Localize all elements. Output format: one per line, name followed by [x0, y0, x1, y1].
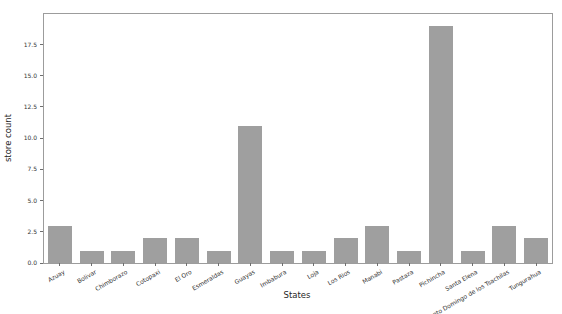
bar	[111, 251, 135, 263]
x-tick-mark	[313, 263, 314, 266]
y-tick-mark	[40, 44, 43, 45]
x-axis-label: States	[43, 290, 551, 300]
plot-area: 0.02.55.07.510.012.515.017.5AzuayBolivar…	[43, 13, 553, 264]
bar	[143, 238, 167, 263]
x-tick-mark	[123, 263, 124, 266]
y-tick-mark	[40, 75, 43, 76]
bar	[334, 238, 358, 263]
bar	[270, 251, 294, 263]
y-tick-label: 5.0	[4, 197, 37, 205]
bar	[175, 238, 199, 263]
x-tick-mark	[91, 263, 92, 266]
bar	[492, 226, 516, 263]
bars-layer	[44, 14, 552, 263]
y-tick-mark	[40, 200, 43, 201]
bar	[207, 251, 231, 263]
y-tick-label: 15.0	[4, 72, 37, 80]
y-tick-label: 2.5	[4, 228, 37, 236]
y-tick-mark	[40, 231, 43, 232]
y-tick-label: 0.0	[4, 259, 37, 267]
bar	[302, 251, 326, 263]
x-tick-mark	[218, 263, 219, 266]
y-tick-label: 17.5	[4, 41, 37, 49]
x-tick-mark	[472, 263, 473, 266]
y-tick-mark	[40, 106, 43, 107]
y-tick-label: 10.0	[4, 134, 37, 142]
x-tick-mark	[377, 263, 378, 266]
x-tick-mark	[250, 263, 251, 266]
y-tick-mark	[40, 138, 43, 139]
x-tick-mark	[440, 263, 441, 266]
x-tick-mark	[282, 263, 283, 266]
bar	[524, 238, 548, 263]
bar	[429, 26, 453, 263]
bar	[238, 126, 262, 263]
bar	[397, 251, 421, 263]
x-tick-mark	[504, 263, 505, 266]
x-tick-mark	[186, 263, 187, 266]
bar	[48, 226, 72, 263]
bar	[365, 226, 389, 263]
x-tick-mark	[345, 263, 346, 266]
y-tick-label: 7.5	[4, 165, 37, 173]
x-tick-mark	[536, 263, 537, 266]
bar	[80, 251, 104, 263]
y-tick-mark	[40, 169, 43, 170]
x-tick-mark	[155, 263, 156, 266]
x-tick-mark	[409, 263, 410, 266]
y-tick-label: 12.5	[4, 103, 37, 111]
x-tick-mark	[59, 263, 60, 266]
y-tick-mark	[40, 263, 43, 264]
bar-chart-figure: store count 0.02.55.07.510.012.515.017.5…	[0, 0, 562, 314]
bar	[461, 251, 485, 263]
